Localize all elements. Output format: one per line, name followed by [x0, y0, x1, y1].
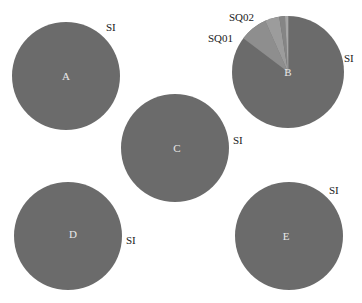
pie-c-si-label: SI — [233, 134, 243, 146]
pie-charts-figure: A SI B SI SQ01 SQ02 C SI D SI E SI — [0, 0, 362, 303]
pie-a-si-label: SI — [106, 21, 116, 33]
pie-c-center-label: C — [173, 142, 180, 154]
pie-b-sq01-label: SQ01 — [208, 32, 233, 44]
pie-d-center-label: D — [69, 228, 77, 240]
pie-b-center-label: B — [284, 66, 291, 78]
pie-e-si-label: SI — [329, 184, 339, 196]
pie-a-center-label: A — [62, 70, 70, 82]
pie-e: E SI — [235, 182, 343, 290]
pie-d-slice-si — [14, 182, 122, 290]
pie-d: D SI — [14, 182, 136, 290]
pie-b-si-label: SI — [344, 52, 354, 64]
pie-c: C SI — [121, 94, 243, 202]
pie-d-si-label: SI — [126, 234, 136, 246]
pie-a: A SI — [12, 21, 120, 130]
pie-b-sq02-label: SQ02 — [229, 11, 254, 23]
pie-b: B SI SQ01 SQ02 — [208, 11, 354, 128]
pie-e-center-label: E — [283, 230, 290, 242]
